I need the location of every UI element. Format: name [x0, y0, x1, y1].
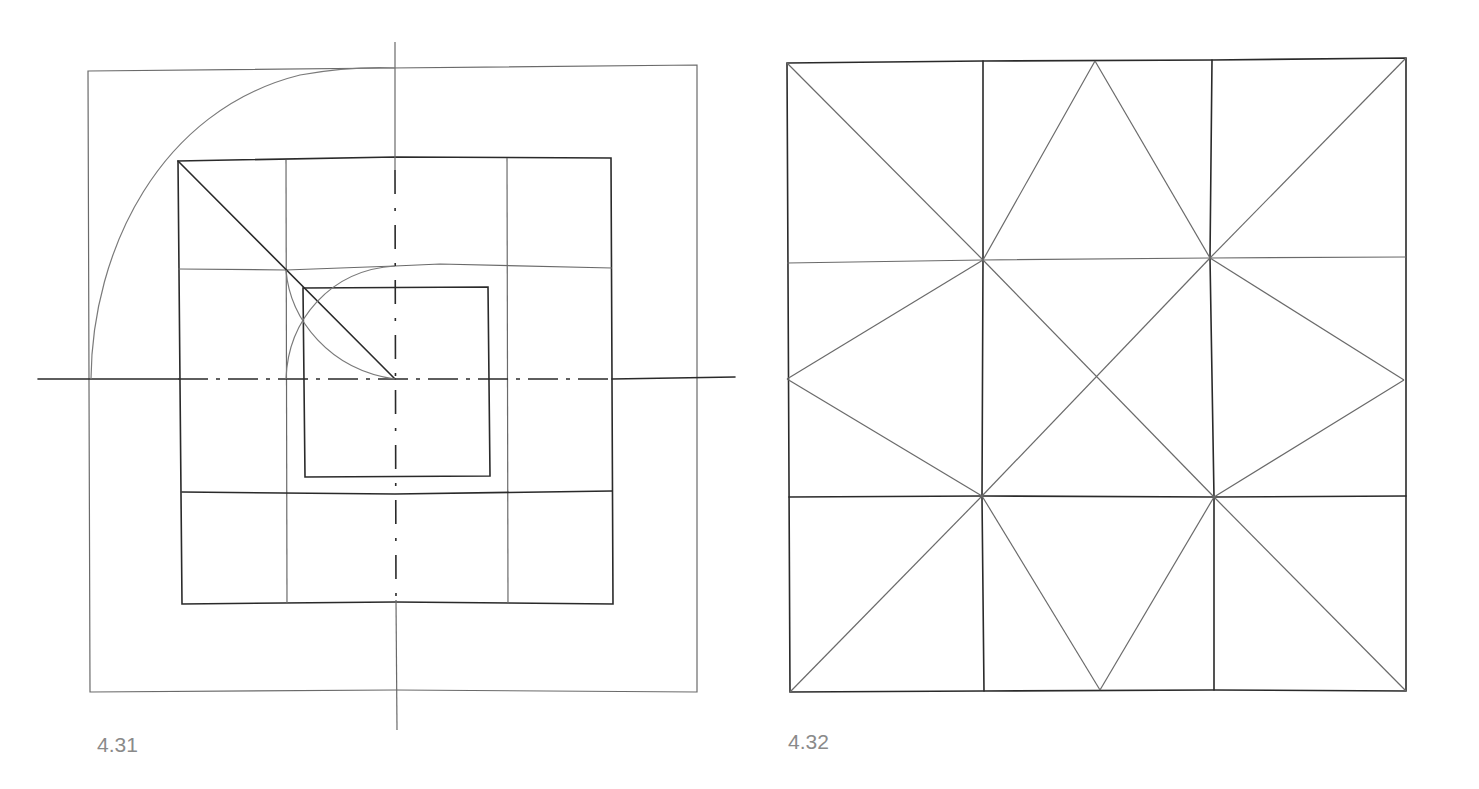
grid-vline-2	[1210, 60, 1214, 690]
left-point-upper	[787, 260, 983, 379]
center-diagonal-a	[983, 260, 1214, 497]
diagonal-tl	[787, 63, 983, 260]
figure-caption: 4.32	[788, 730, 829, 754]
diagonal-br	[1214, 497, 1406, 691]
figure-4-31: 4.31	[0, 0, 760, 789]
nested-squares-construction-diagram	[0, 0, 760, 789]
right-point-lower	[1214, 380, 1404, 497]
star-grid-diagram	[760, 0, 1479, 789]
bottom-point-left	[982, 496, 1100, 690]
vertical-axis-dashdot	[395, 170, 396, 600]
vertical-axis-bottom	[396, 600, 397, 730]
figure-caption: 4.31	[97, 733, 138, 757]
left-point-lower	[787, 379, 982, 496]
bottom-point-right	[1100, 497, 1214, 690]
diagonal-bl	[790, 496, 982, 692]
top-point-right	[1095, 61, 1210, 258]
grid-hline-2	[789, 496, 1406, 497]
grid-hline-1	[787, 257, 1406, 263]
grid-vline-1	[286, 160, 287, 604]
diagonal-tr	[1210, 58, 1406, 258]
figure-4-32: 4.32	[760, 0, 1479, 789]
horizontal-axis-right	[612, 377, 735, 379]
grid-vline-1	[982, 61, 984, 691]
top-point-left	[983, 61, 1095, 260]
right-point-upper	[1210, 258, 1404, 380]
grid-hline-3	[182, 491, 612, 494]
grid-square	[178, 157, 613, 604]
grid-vline-3	[507, 158, 508, 603]
